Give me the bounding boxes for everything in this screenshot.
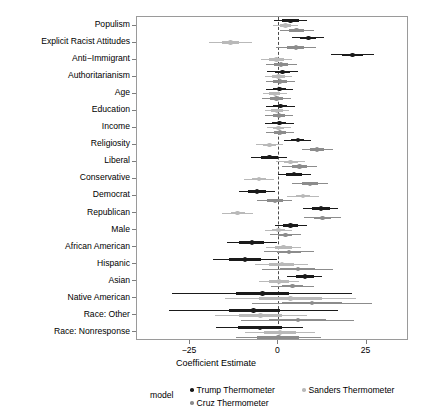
estimate-point (287, 250, 291, 254)
estimate-point (257, 177, 261, 181)
estimate-point (277, 87, 281, 91)
x-axis-tick (189, 340, 190, 344)
estimate-point (278, 79, 282, 83)
estimate-point (278, 104, 282, 108)
estimate-point (294, 28, 298, 32)
estimate-point (275, 109, 279, 113)
y-axis-tick-label: Anti−Immigrant (72, 54, 130, 63)
estimate-point (276, 126, 280, 130)
estimate-point (303, 274, 307, 278)
y-axis-tick-label: Liberal (104, 156, 130, 165)
plot-panel (136, 16, 408, 340)
estimate-point (320, 216, 324, 220)
estimate-point (283, 23, 287, 27)
estimate-point (277, 113, 281, 117)
estimate-point (267, 155, 271, 159)
estimate-point (280, 70, 284, 74)
y-axis-tick-label: Authoritarianism (68, 71, 130, 80)
estimate-point (258, 326, 262, 330)
estimate-point (273, 199, 277, 203)
estimate-point (279, 62, 283, 66)
legend-item[interactable]: Sanders Thermometer (302, 385, 394, 395)
legend-item-label: Trump Thermometer (197, 385, 275, 395)
y-axis-tick-label: Native American (67, 293, 130, 302)
estimate-point (290, 284, 294, 288)
estimate-point (319, 206, 323, 210)
estimate-point (294, 45, 298, 49)
estimate-point (280, 262, 284, 266)
legend-title: model (150, 390, 173, 400)
y-axis-tick-label: Populism (95, 20, 130, 29)
y-axis-tick-label: Age (115, 88, 130, 97)
estimate-point (228, 40, 232, 44)
estimate-point (250, 240, 254, 244)
estimate-point (276, 74, 280, 78)
legend-item-label: Sanders Thermometer (309, 385, 395, 395)
y-axis-tick-label: Male (111, 225, 130, 234)
estimate-point (297, 164, 301, 168)
x-axis-tick (366, 340, 367, 344)
y-axis-tick-label: Asian (109, 276, 131, 285)
x-axis-tick-label: 25 (336, 345, 396, 355)
estimate-point (296, 318, 300, 322)
estimate-point (273, 92, 277, 96)
legend-item[interactable]: Trump Thermometer (190, 385, 275, 395)
estimate-point (277, 279, 281, 283)
estimate-point (296, 138, 300, 142)
estimate-point (277, 121, 281, 125)
estimate-point (274, 96, 278, 100)
estimate-point (276, 228, 280, 232)
x-axis-tick (277, 340, 278, 344)
estimate-point (310, 301, 314, 305)
legend-marker-dot-icon (190, 388, 194, 392)
estimate-point (306, 36, 310, 40)
y-axis-tick-label: Explicit Racist Attitudes (41, 37, 130, 46)
estimate-point (296, 267, 300, 271)
estimate-point (283, 233, 287, 237)
estimate-point (301, 194, 305, 198)
estimate-point (288, 160, 292, 164)
y-axis-tick-label: Education (92, 105, 130, 114)
y-axis-tick-label: Religiosity (91, 139, 130, 148)
estimate-point (288, 19, 292, 23)
estimate-point (315, 147, 319, 151)
y-axis-tick-label: Race: Nonresponse (54, 327, 130, 336)
estimate-point (278, 330, 282, 334)
estimate-point (281, 245, 285, 249)
y-axis-tick-label: Republican (87, 208, 130, 217)
x-axis-tick-label: −25 (159, 345, 219, 355)
y-axis-tick-label: Income (102, 122, 130, 131)
legend-item-label: Cruz Thermometer (197, 398, 269, 408)
estimate-point (260, 291, 264, 295)
coefficient-plot-figure: PopulismExplicit Racist AttitudesAnti−Im… (0, 0, 432, 420)
y-axis-tick-label: Hispanic (97, 259, 130, 268)
estimate-point (276, 335, 280, 339)
estimate-point (251, 308, 255, 312)
estimate-point (288, 296, 292, 300)
estimate-point (255, 189, 259, 193)
legend-item[interactable]: Cruz Thermometer (190, 398, 269, 408)
estimate-point (278, 130, 282, 134)
estimate-point (274, 57, 278, 61)
y-axis-tick-label: Race: Other (84, 310, 130, 319)
y-axis-tick-label: African American (65, 242, 130, 251)
estimate-point (308, 182, 312, 186)
legend-marker-dot-icon (302, 388, 306, 392)
estimate-point (258, 313, 262, 317)
y-axis-tick-label: Democrat (93, 190, 130, 199)
legend: model Trump ThermometerSanders Thermomet… (150, 385, 430, 415)
y-axis-tick-label: Conservative (80, 173, 130, 182)
estimate-point (288, 223, 292, 227)
estimate-point (235, 211, 239, 215)
estimate-point (292, 172, 296, 176)
legend-marker-dot-icon (190, 401, 194, 405)
estimate-point (243, 257, 247, 261)
x-axis-title: Coefficient Estimate (0, 358, 432, 368)
estimate-point (350, 53, 354, 57)
x-axis-tick-label: 0 (247, 345, 307, 355)
estimate-point (267, 143, 271, 147)
